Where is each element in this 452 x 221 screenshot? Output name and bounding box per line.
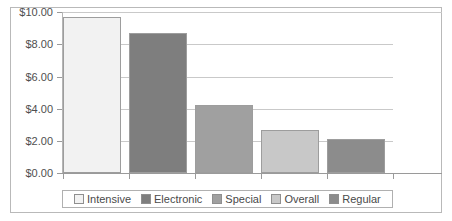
bar-regular[interactable] [327, 139, 385, 173]
legend-label: Special [225, 193, 261, 205]
x-tick-mark [195, 173, 196, 179]
x-tick-mark [63, 173, 64, 179]
y-axis-label-5: $0.00 [25, 167, 53, 179]
legend-item-regular[interactable]: Regular [329, 193, 381, 205]
legend-label: Electronic [154, 193, 202, 205]
legend-item-special[interactable]: Special [212, 193, 261, 205]
y-axis-labels: $10.00 $8.00 $6.00 $4.00 $2.00 $0.00 [0, 0, 53, 221]
legend-swatch-icon [141, 194, 151, 204]
x-tick-mark [393, 173, 394, 179]
x-tick-mark [261, 173, 262, 179]
x-tick-mark [129, 173, 130, 179]
legend-swatch-icon [271, 194, 281, 204]
bar-intensive[interactable] [63, 17, 121, 173]
legend-item-overall[interactable]: Overall [271, 193, 319, 205]
bar-electronic[interactable] [129, 33, 187, 173]
legend-swatch-icon [74, 194, 84, 204]
chart-legend: Intensive Electronic Special Overall Reg… [62, 190, 393, 208]
legend-swatch-icon [329, 194, 339, 204]
y-axis-label-0: $10.00 [19, 6, 53, 18]
y-axis-label-1: $8.00 [25, 38, 53, 50]
legend-label: Overall [284, 193, 319, 205]
legend-label: Regular [342, 193, 381, 205]
legend-item-electronic[interactable]: Electronic [141, 193, 202, 205]
bar-overall[interactable] [261, 130, 319, 173]
x-tick-mark [327, 173, 328, 179]
legend-swatch-icon [212, 194, 222, 204]
bar-special[interactable] [195, 105, 253, 173]
legend-label: Intensive [87, 193, 131, 205]
y-axis-label-2: $6.00 [25, 71, 53, 83]
y-axis-label-4: $2.00 [25, 135, 53, 147]
bar-chart: $10.00 $8.00 $6.00 $4.00 $2.00 $0.00 Int… [0, 0, 452, 221]
plot-area [63, 12, 393, 173]
x-axis-line [57, 173, 442, 174]
legend-item-intensive[interactable]: Intensive [74, 193, 131, 205]
y-axis-label-3: $4.00 [25, 103, 53, 115]
